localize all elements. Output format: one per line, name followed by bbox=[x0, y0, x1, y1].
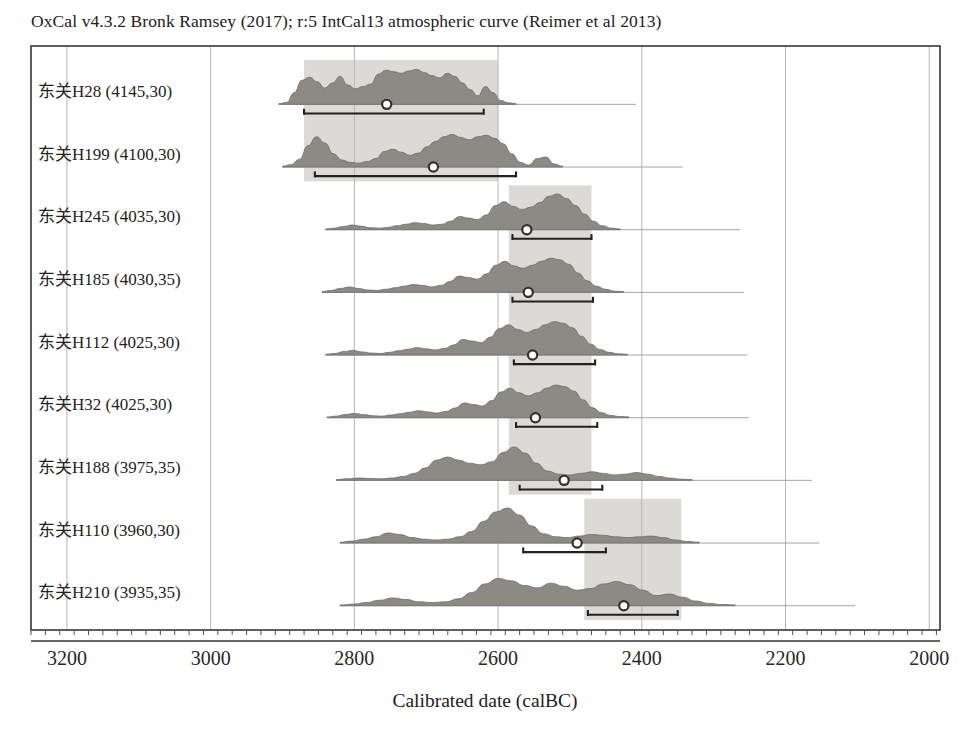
median-marker bbox=[560, 476, 569, 485]
median-marker bbox=[531, 413, 540, 422]
row-label: 东关H188 (3975,35) bbox=[38, 458, 181, 477]
x-axis-tick-label: 2800 bbox=[334, 647, 374, 669]
row-label: 东关H28 (4145,30) bbox=[38, 82, 172, 101]
axis-tick-labels-layer: 3200300028002600240022002000 bbox=[47, 647, 949, 669]
distribution-row: 东关H245 (4035,30) bbox=[38, 194, 740, 240]
median-marker bbox=[573, 538, 582, 547]
median-marker bbox=[524, 288, 533, 297]
row-label: 东关H210 (3935,35) bbox=[38, 583, 181, 602]
row-label: 东关H185 (4030,35) bbox=[38, 270, 181, 289]
distribution-row: 东关H112 (4025,30) bbox=[38, 322, 747, 366]
row-label: 东关H199 (4100,30) bbox=[38, 145, 181, 164]
distribution-row: 东关H188 (3975,35) bbox=[38, 447, 812, 491]
row-label: 东关H32 (4025,30) bbox=[38, 395, 172, 414]
oxcal-plot-page: OxCal v4.3.2 Bronk Ramsey (2017); r:5 In… bbox=[0, 0, 971, 747]
median-marker bbox=[522, 225, 531, 234]
distribution-row: 东关H210 (3935,35) bbox=[38, 579, 855, 617]
distribution-row: 东关H110 (3960,30) bbox=[38, 508, 819, 553]
row-label: 东关H245 (4035,30) bbox=[38, 207, 181, 226]
row-label: 东关H112 (4025,30) bbox=[38, 333, 180, 352]
x-axis-title: Calibrated date (calBC) bbox=[392, 690, 577, 712]
x-axis-tick-label: 2600 bbox=[478, 647, 518, 669]
median-marker bbox=[619, 601, 628, 610]
distribution-rows-layer: 东关H28 (4145,30)东关H199 (4100,30)东关H245 (4… bbox=[38, 69, 855, 616]
distribution-row: 东关H185 (4030,35) bbox=[38, 258, 744, 303]
axis-ticks-layer bbox=[31, 630, 940, 641]
x-axis-tick-label: 2200 bbox=[766, 647, 806, 669]
calibration-plot: 东关H28 (4145,30)东关H199 (4100,30)东关H245 (4… bbox=[0, 0, 971, 747]
x-axis-tick-label: 2400 bbox=[622, 647, 662, 669]
median-marker bbox=[528, 350, 537, 359]
x-axis-tick-label: 2000 bbox=[909, 647, 949, 669]
probability-distribution bbox=[336, 447, 692, 480]
median-marker bbox=[429, 162, 438, 171]
x-axis-tick-label: 3000 bbox=[191, 647, 231, 669]
x-axis-tick-label: 3200 bbox=[47, 647, 87, 669]
row-label: 东关H110 (3960,30) bbox=[38, 521, 180, 540]
median-marker bbox=[382, 100, 391, 109]
